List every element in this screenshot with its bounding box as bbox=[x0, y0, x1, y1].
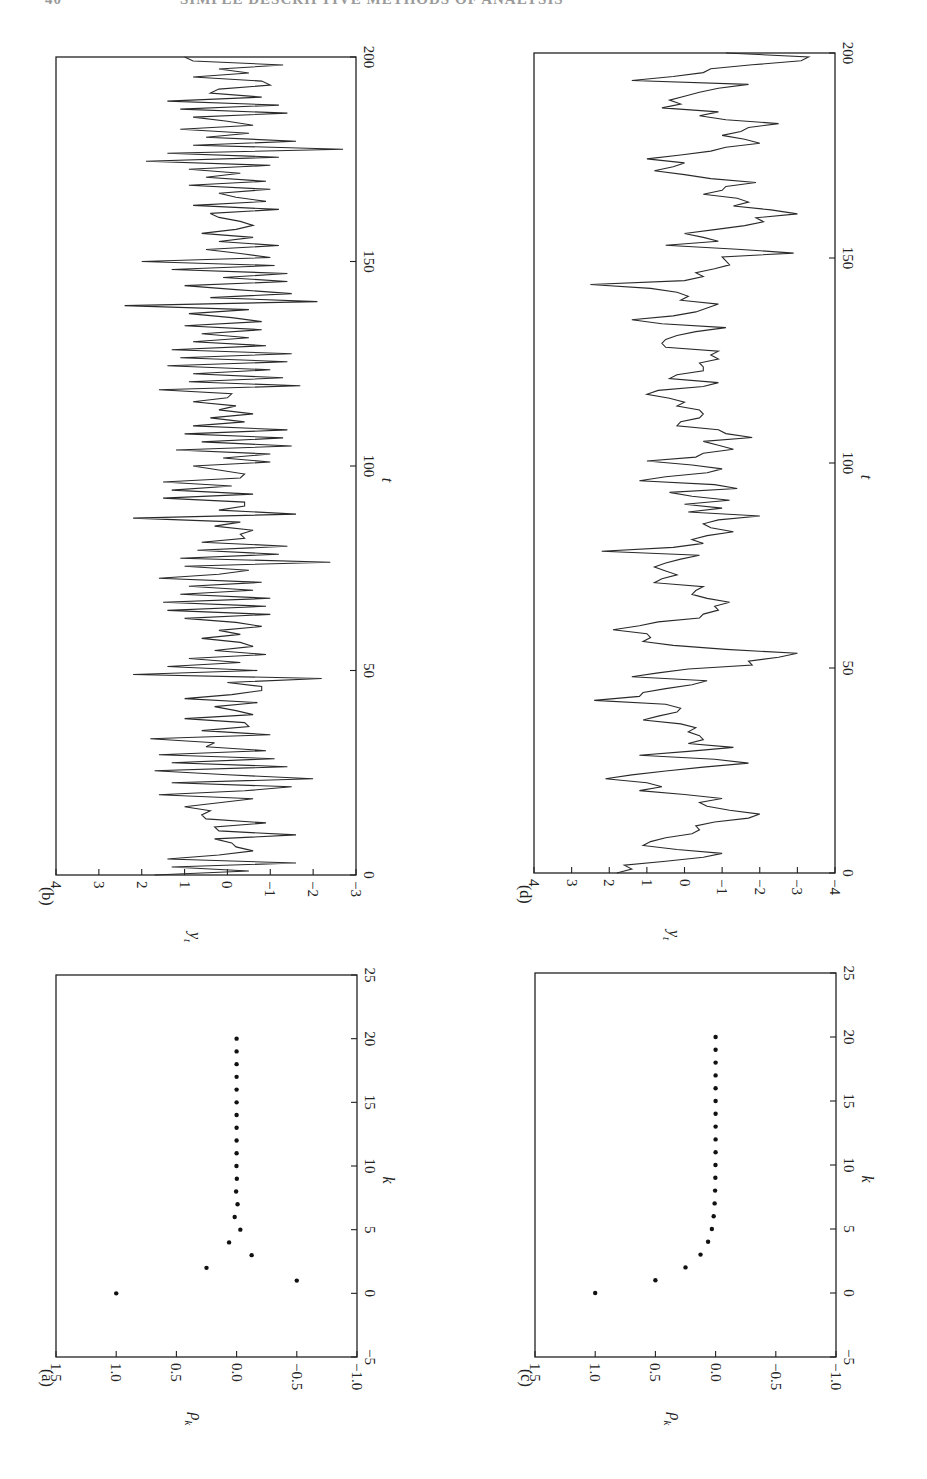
x-axis-label: k bbox=[380, 1176, 397, 1184]
y-tick-label: 0.5 bbox=[168, 1363, 184, 1382]
y-tick-label: −1.0 bbox=[828, 1363, 844, 1390]
y-tick-label: 1 bbox=[639, 879, 655, 887]
acf-point bbox=[235, 1202, 239, 1206]
panel-b-time-series-plot: 050100150200−3−2−101234tyt(b) bbox=[38, 46, 396, 943]
x-tick-label: 100 bbox=[361, 455, 377, 478]
y-tick-label: −3 bbox=[348, 881, 364, 897]
y-tick-label: −0.5 bbox=[768, 1363, 784, 1390]
acf-point bbox=[713, 1035, 717, 1039]
y-tick-label: 2 bbox=[601, 879, 617, 887]
acf-point bbox=[713, 1188, 717, 1192]
acf-point bbox=[234, 1049, 238, 1053]
panel-c-acf-plot: −50510152025−1.0−0.50.00.51.01.5kρk(c) bbox=[517, 966, 876, 1427]
acf-point bbox=[706, 1240, 710, 1244]
acf-point bbox=[713, 1137, 717, 1141]
panel-label: (c) bbox=[517, 1369, 535, 1387]
y-tick-label: 1.0 bbox=[587, 1363, 603, 1382]
series-line bbox=[125, 57, 344, 875]
x-tick-label: 15 bbox=[362, 1095, 378, 1110]
x-tick-label: 15 bbox=[841, 1094, 857, 1109]
y-tick-label: 0.5 bbox=[647, 1363, 663, 1382]
panel-a-acf-plot: −50510152025−1.0−0.50.00.51.01.5kρk(a) bbox=[38, 968, 397, 1427]
acf-point bbox=[712, 1201, 716, 1205]
acf-point bbox=[204, 1266, 208, 1270]
y-tick-label: 0 bbox=[219, 881, 235, 889]
y-tick-label: 0.0 bbox=[708, 1363, 724, 1382]
acf-point bbox=[234, 1164, 238, 1168]
panel-label: (a) bbox=[38, 1369, 56, 1387]
x-axis-label: k bbox=[859, 1175, 876, 1183]
acf-point bbox=[234, 1189, 238, 1193]
acf-point bbox=[227, 1240, 231, 1244]
x-tick-label: 150 bbox=[840, 247, 856, 270]
x-tick-label: 200 bbox=[840, 42, 856, 65]
y-tick-label: 3 bbox=[91, 881, 107, 889]
figure-four-panels: −50510152025−1.0−0.50.00.51.01.5kρk(a) 0… bbox=[0, 0, 927, 1479]
acf-point bbox=[653, 1278, 657, 1282]
y-tick-label: 1.0 bbox=[108, 1363, 124, 1382]
acf-point bbox=[234, 1138, 238, 1142]
acf-point bbox=[698, 1252, 702, 1256]
acf-point bbox=[295, 1278, 299, 1282]
x-tick-label: 10 bbox=[362, 1159, 378, 1174]
y-tick-label: −1 bbox=[262, 881, 278, 897]
y-tick-label: 1 bbox=[177, 881, 193, 889]
acf-point bbox=[232, 1215, 236, 1219]
acf-point bbox=[114, 1291, 118, 1295]
y-tick-label: −2 bbox=[752, 879, 768, 895]
panel-label: (d) bbox=[516, 885, 534, 904]
acf-point bbox=[238, 1227, 242, 1231]
x-tick-label: 0 bbox=[840, 869, 856, 877]
acf-point bbox=[710, 1227, 714, 1231]
acf-point bbox=[713, 1048, 717, 1052]
plot-frame bbox=[56, 975, 357, 1357]
y-tick-label: 0.0 bbox=[229, 1363, 245, 1382]
y-axis-label: yt bbox=[182, 930, 204, 943]
y-tick-label: −4 bbox=[827, 879, 843, 895]
acf-point bbox=[234, 1036, 238, 1040]
acf-point bbox=[713, 1150, 717, 1154]
y-axis-label: yt bbox=[661, 928, 683, 941]
acf-point bbox=[713, 1086, 717, 1090]
panel-label: (b) bbox=[38, 887, 56, 906]
x-tick-label: 25 bbox=[841, 966, 857, 981]
acf-point bbox=[713, 1124, 717, 1128]
y-tick-label: −0.5 bbox=[289, 1363, 305, 1390]
x-axis-label: t bbox=[379, 478, 396, 483]
panel-d-time-series-plot: 050100150200−4−3−2−101234tyt(d) bbox=[516, 42, 875, 941]
x-tick-label: 50 bbox=[840, 661, 856, 676]
acf-point bbox=[683, 1265, 687, 1269]
acf-point bbox=[249, 1253, 253, 1257]
acf-point bbox=[234, 1151, 238, 1155]
acf-point bbox=[713, 1073, 717, 1077]
x-tick-label: 100 bbox=[840, 452, 856, 475]
y-tick-label: 0 bbox=[677, 879, 693, 887]
x-tick-label: 50 bbox=[361, 663, 377, 678]
acf-point bbox=[713, 1176, 717, 1180]
series-line bbox=[590, 53, 808, 873]
y-axis-label: ρk bbox=[183, 1412, 205, 1427]
x-tick-label: 200 bbox=[361, 46, 377, 69]
y-tick-label: −1 bbox=[714, 879, 730, 895]
acf-point bbox=[234, 1100, 238, 1104]
acf-point bbox=[713, 1099, 717, 1103]
acf-point bbox=[713, 1060, 717, 1064]
x-tick-label: 20 bbox=[841, 1030, 857, 1045]
y-tick-label: 2 bbox=[134, 881, 150, 889]
acf-point bbox=[235, 1177, 239, 1181]
acf-point bbox=[713, 1112, 717, 1116]
x-tick-label: 150 bbox=[361, 250, 377, 273]
acf-point bbox=[234, 1126, 238, 1130]
plot-frame bbox=[56, 57, 356, 875]
x-tick-label: 0 bbox=[841, 1289, 857, 1297]
x-axis-label: t bbox=[858, 475, 875, 480]
acf-point bbox=[234, 1113, 238, 1117]
plot-frame bbox=[534, 53, 835, 873]
x-tick-label: 0 bbox=[361, 871, 377, 879]
y-tick-label: 3 bbox=[564, 879, 580, 887]
x-tick-label: 20 bbox=[362, 1031, 378, 1046]
acf-point bbox=[234, 1075, 238, 1079]
acf-point bbox=[593, 1291, 597, 1295]
y-tick-label: −3 bbox=[789, 879, 805, 895]
y-tick-label: −2 bbox=[305, 881, 321, 897]
